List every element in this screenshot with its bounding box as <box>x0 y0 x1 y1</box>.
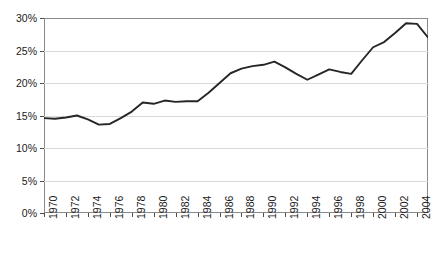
x-tick-label: 1990 <box>267 196 277 219</box>
x-tick-mark <box>66 213 67 217</box>
gridline <box>44 116 428 117</box>
y-tick-label: 30% <box>0 13 37 23</box>
y-tick-mark <box>40 51 44 52</box>
y-tick-label: 0% <box>0 208 37 218</box>
x-tick-mark <box>220 213 221 217</box>
x-tick-label: 1980 <box>158 196 168 219</box>
x-tick-mark <box>198 213 199 217</box>
x-tick-label: 1984 <box>202 196 212 219</box>
y-tick-mark <box>40 181 44 182</box>
x-tick-label: 2000 <box>377 196 387 219</box>
y-tick-label: 20% <box>0 78 37 88</box>
x-tick-label: 1976 <box>114 196 124 219</box>
y-tick-label: 25% <box>0 46 37 56</box>
x-tick-label: 1986 <box>224 196 234 219</box>
x-tick-label: 1982 <box>180 196 190 219</box>
x-tick-mark <box>241 213 242 217</box>
x-tick-label: 1970 <box>48 196 58 219</box>
x-tick-label: 2002 <box>399 196 409 219</box>
gridline <box>44 148 428 149</box>
x-tick-mark <box>88 213 89 217</box>
y-tick-label: 5% <box>0 176 37 186</box>
line-chart: 30%25%20%15%10%5%0% 19701972197419761978… <box>0 0 443 263</box>
x-tick-mark <box>176 213 177 217</box>
y-tick-mark <box>40 116 44 117</box>
x-tick-label: 1998 <box>355 196 365 219</box>
gridline <box>44 51 428 52</box>
y-tick-mark <box>40 18 44 19</box>
x-tick-mark <box>44 213 45 217</box>
x-tick-label: 1992 <box>289 196 299 219</box>
x-tick-mark <box>373 213 374 217</box>
x-tick-mark <box>132 213 133 217</box>
y-tick-mark <box>40 148 44 149</box>
x-tick-mark <box>351 213 352 217</box>
gridline <box>44 83 428 84</box>
x-tick-mark <box>285 213 286 217</box>
x-tick-label: 1988 <box>245 196 255 219</box>
x-tick-label: 1972 <box>70 196 80 219</box>
y-tick-label: 15% <box>0 111 37 121</box>
x-tick-mark <box>395 213 396 217</box>
x-tick-mark <box>307 213 308 217</box>
y-tick-mark <box>40 83 44 84</box>
x-tick-label: 2004 <box>421 196 431 219</box>
gridline <box>44 181 428 182</box>
x-tick-mark <box>329 213 330 217</box>
x-tick-label: 1994 <box>311 196 321 219</box>
x-tick-mark <box>154 213 155 217</box>
x-tick-label: 1996 <box>333 196 343 219</box>
y-tick-label: 10% <box>0 143 37 153</box>
x-tick-label: 1978 <box>136 196 146 219</box>
x-tick-mark <box>110 213 111 217</box>
x-tick-label: 1974 <box>92 196 102 219</box>
axes-layer: 30%25%20%15%10%5%0% 19701972197419761978… <box>0 0 443 263</box>
x-tick-mark <box>417 213 418 217</box>
x-tick-mark <box>263 213 264 217</box>
